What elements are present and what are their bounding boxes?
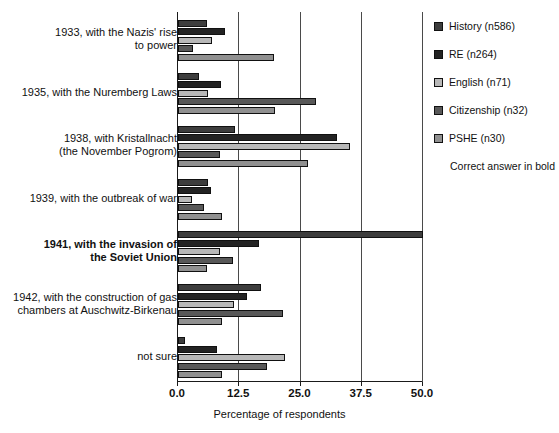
bar xyxy=(178,363,267,370)
bar xyxy=(178,354,285,361)
bar xyxy=(178,179,208,186)
bar xyxy=(178,310,283,317)
gridline xyxy=(238,12,239,382)
x-axis-tick xyxy=(361,382,362,386)
bar xyxy=(178,81,221,88)
legend-swatch-icon xyxy=(434,106,443,115)
legend-label: English (n71) xyxy=(449,76,511,88)
bar xyxy=(178,196,192,203)
x-axis-tick xyxy=(238,382,239,386)
x-axis-tick-label: 37.5 xyxy=(350,387,372,399)
bar xyxy=(178,28,225,35)
x-axis-tick-label: 25.0 xyxy=(288,387,310,399)
legend-item[interactable]: Citizenship (n32) xyxy=(434,104,528,116)
bar xyxy=(178,107,275,114)
bar xyxy=(178,318,222,325)
category-label: 1933, with the Nazis' rise to power xyxy=(0,26,177,52)
x-axis-tick-label: 0.0 xyxy=(169,387,185,399)
bar xyxy=(178,257,233,264)
bar xyxy=(178,337,185,344)
legend-item[interactable]: PSHE (n30) xyxy=(434,132,505,144)
legend-label: RE (n264) xyxy=(449,48,497,60)
x-axis-tick-label: 12.5 xyxy=(227,387,249,399)
bar xyxy=(178,231,423,238)
legend-swatch-icon xyxy=(434,78,443,87)
x-axis-tick xyxy=(422,382,423,386)
bar xyxy=(178,73,199,80)
bar xyxy=(178,248,220,255)
legend-swatch-icon xyxy=(434,134,443,143)
legend: History (n586)RE (n264)English (n71)Citi… xyxy=(424,12,559,177)
bar xyxy=(178,284,261,291)
bar xyxy=(178,213,222,220)
bar xyxy=(178,20,207,27)
legend-item[interactable]: History (n586) xyxy=(434,20,515,32)
x-axis-tick xyxy=(300,382,301,386)
category-label: 1938, with Kristallnacht (the November P… xyxy=(0,132,177,158)
bar xyxy=(178,98,316,105)
legend-swatch-icon xyxy=(434,22,443,31)
gridline xyxy=(300,12,301,382)
bar xyxy=(178,265,207,272)
bar xyxy=(178,90,208,97)
x-axis-title: Percentage of respondents xyxy=(0,408,559,420)
category-label: not sure xyxy=(0,350,177,363)
bar xyxy=(178,371,222,378)
bar xyxy=(178,293,247,300)
x-axis-tick xyxy=(177,382,178,386)
bar xyxy=(178,126,235,133)
gridline xyxy=(361,12,362,382)
bar xyxy=(178,240,259,247)
bar xyxy=(178,301,234,308)
legend-item[interactable]: RE (n264) xyxy=(434,48,497,60)
legend-note: Correct answer in bold xyxy=(450,160,555,172)
bar xyxy=(178,143,350,150)
gridline xyxy=(422,12,423,382)
legend-item[interactable]: English (n71) xyxy=(434,76,511,88)
chart-figure: 1933, with the Nazis' rise to power1935,… xyxy=(0,0,559,433)
category-label: 1941, with the invasion of the Soviet Un… xyxy=(0,238,177,264)
bar xyxy=(178,160,308,167)
category-label: 1939, with the outbreak of war xyxy=(0,192,177,205)
bar xyxy=(178,204,204,211)
legend-swatch-icon xyxy=(434,50,443,59)
legend-label: Citizenship (n32) xyxy=(449,104,528,116)
legend-label: History (n586) xyxy=(449,20,515,32)
x-axis-tick-label: 50.0 xyxy=(411,387,433,399)
bar xyxy=(178,151,220,158)
bar xyxy=(178,45,193,52)
category-label: 1935, with the Nuremberg Laws xyxy=(0,86,177,99)
bar xyxy=(178,346,217,353)
legend-label: PSHE (n30) xyxy=(449,132,505,144)
bar xyxy=(178,134,337,141)
category-label: 1942, with the construction of gas chamb… xyxy=(0,291,177,317)
bar xyxy=(178,37,212,44)
bar xyxy=(178,187,211,194)
bar xyxy=(178,54,274,61)
